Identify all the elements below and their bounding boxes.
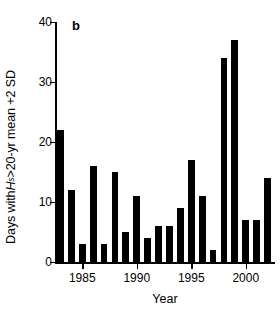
bar [221, 58, 228, 262]
y-axis-title-prefix: Days with [4, 191, 18, 244]
bar [90, 166, 97, 262]
bar [122, 232, 129, 262]
x-tick-mark [191, 264, 192, 269]
bar [231, 40, 238, 262]
bar [112, 172, 119, 262]
x-tick-group: 1985199019952000 [55, 264, 275, 290]
y-tick-label: 40 [39, 15, 52, 29]
x-tick-label: 1985 [69, 271, 96, 285]
y-tick-label: 10 [39, 195, 52, 209]
y-axis-title-subscript: s [6, 178, 16, 182]
bar [133, 196, 140, 262]
bar [199, 196, 206, 262]
bar [188, 160, 195, 262]
bar [68, 190, 75, 262]
y-tick-label: 0 [45, 255, 52, 269]
bar [210, 250, 217, 262]
bar [57, 130, 64, 262]
figure-panel-b: Days with Hs>20-yr mean +2 SD 010203040 … [0, 0, 280, 314]
y-axis-title: Days with Hs>20-yr mean +2 SD [0, 22, 22, 292]
y-axis-title-suffix: >20-yr mean +2 SD [4, 70, 18, 177]
x-tick-label: 1995 [178, 271, 205, 285]
x-tick-label: 2000 [232, 271, 259, 285]
x-tick-label: 1990 [123, 271, 150, 285]
bar-series [55, 22, 273, 262]
y-tick-label: 30 [39, 75, 52, 89]
x-tick-mark [82, 264, 83, 269]
panel-letter: b [72, 18, 80, 33]
bar [177, 208, 184, 262]
bar [79, 244, 86, 262]
bar [166, 226, 173, 262]
bar [242, 220, 249, 262]
x-tick-mark [246, 264, 247, 269]
y-axis-title-symbol: H [4, 182, 18, 191]
bar [264, 178, 271, 262]
bar [101, 244, 108, 262]
x-tick-mark [137, 264, 138, 269]
bar [155, 226, 162, 262]
plot-area: 010203040 [55, 22, 273, 262]
bar [144, 238, 151, 262]
bar [253, 220, 260, 262]
x-axis-title: Year [55, 292, 275, 306]
y-tick-label: 20 [39, 135, 52, 149]
